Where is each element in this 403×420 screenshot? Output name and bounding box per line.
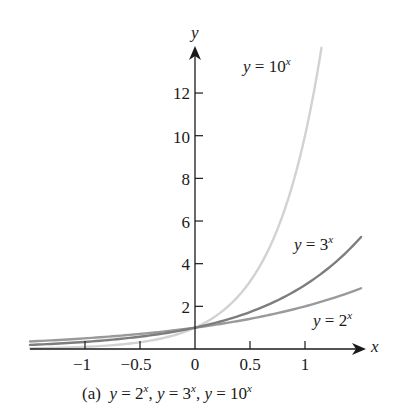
y-tick-label: 4	[182, 256, 191, 273]
x-tick-label: −1	[73, 356, 91, 373]
x-tick-label: −0.5	[121, 356, 152, 373]
y-tick-label: 12	[173, 85, 190, 102]
series-label-10x: y = 10x	[243, 58, 291, 75]
x-tick-label: 1	[301, 356, 310, 373]
x-axis-label: x	[371, 338, 379, 355]
figure-caption: (a) y = 2x, y = 3x, y = 10x	[82, 385, 252, 402]
series-label-2x: y = 2x	[313, 312, 352, 329]
y-tick-label: 6	[182, 214, 191, 231]
y-tick-label: 2	[182, 299, 191, 316]
y-tick-label: 10	[173, 129, 190, 146]
chart-plot-area	[0, 0, 403, 420]
y-tick-label: 8	[182, 171, 191, 188]
x-tick-label: 0.5	[239, 356, 260, 373]
series-label-3x: y = 3x	[294, 236, 333, 253]
y-ticks	[195, 93, 203, 306]
x-tick-label: 0	[191, 356, 200, 373]
y-axis-label: y	[191, 24, 199, 41]
